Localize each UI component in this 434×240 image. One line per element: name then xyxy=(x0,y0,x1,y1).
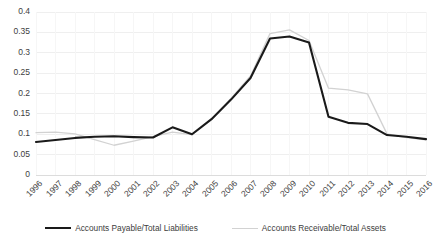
y-tick-label: 0.3 xyxy=(0,48,30,57)
legend-entry-0[interactable]: Accounts Payable/Total Liabilities xyxy=(45,223,198,233)
y-tick-label: 0.35 xyxy=(0,27,30,36)
legend-line-icon xyxy=(232,228,258,229)
y-tick-label: 0 xyxy=(0,170,30,179)
y-tick-label: 0.4 xyxy=(0,7,30,16)
y-tick-label: 0.1 xyxy=(0,129,30,138)
chart-legend: Accounts Payable/Total LiabilitiesAccoun… xyxy=(0,218,431,238)
legend-label: Accounts Receivable/Total Assets xyxy=(262,223,386,233)
y-tick-label: 0.25 xyxy=(0,68,30,77)
y-tick-label: 0.15 xyxy=(0,109,30,118)
y-tick-label: 0.2 xyxy=(0,89,30,98)
legend-line-icon xyxy=(45,227,71,229)
legend-label: Accounts Payable/Total Liabilities xyxy=(75,223,198,233)
y-tick-label: 0.05 xyxy=(0,150,30,159)
legend-entry-1[interactable]: Accounts Receivable/Total Assets xyxy=(232,223,386,233)
